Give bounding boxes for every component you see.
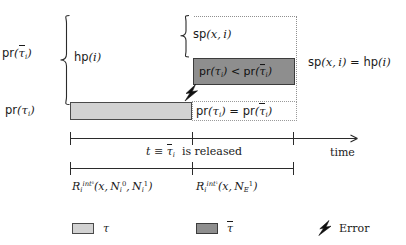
error-lightning-bolt-icon bbox=[184, 84, 200, 102]
label-priority-tau: pr(τi) bbox=[5, 103, 35, 118]
label-hp: hp(i) bbox=[74, 50, 101, 64]
time-tick-end bbox=[293, 132, 294, 145]
dotted-guide-vertical bbox=[296, 16, 297, 102]
legend-swatch-taubar-icon bbox=[196, 223, 218, 234]
legend-swatch-lightning-bolt-icon bbox=[318, 220, 333, 236]
label-interval-0: Riint0(x, Ni0, Ni1) bbox=[72, 180, 153, 194]
interval-tick-end bbox=[293, 162, 294, 175]
legend-item-taubar: τ bbox=[196, 222, 233, 235]
timing-diagram-figure: pr(τi) pr(τi) hp(i) sp(x, i) pr(τi) < pr… bbox=[0, 0, 406, 245]
legend-item-tau: τ bbox=[72, 222, 109, 235]
legend-label-taubar: τ bbox=[227, 222, 233, 235]
dotted-guide-top bbox=[194, 16, 297, 17]
time-axis-arrowhead-icon bbox=[345, 133, 359, 144]
label-release-event: t ≡ τi is released bbox=[146, 145, 242, 159]
interval-tick-middle bbox=[192, 162, 193, 175]
interval-axis-line bbox=[70, 168, 294, 169]
label-interval-1: Riint1(x, NE1) bbox=[196, 180, 257, 194]
legend-item-error: Error bbox=[318, 220, 369, 236]
label-time-axis: time bbox=[330, 146, 355, 159]
legend-label-error: Error bbox=[339, 222, 369, 235]
label-pr-less-than: pr(τi) < pr(τi) bbox=[199, 65, 272, 79]
taubar-execution-bar: pr(τi) < pr(τi) bbox=[193, 58, 295, 85]
tau-execution-bar bbox=[70, 102, 192, 120]
label-sp-equals-hp: sp(x, i) = hp(i) bbox=[308, 55, 391, 69]
legend-swatch-tau-icon bbox=[72, 223, 94, 234]
legend-label-tau: τ bbox=[103, 222, 109, 235]
time-tick-release bbox=[192, 132, 193, 145]
time-axis-line bbox=[70, 138, 351, 139]
label-sp: sp(x, i) bbox=[193, 27, 231, 41]
sp-brace-icon bbox=[178, 14, 191, 60]
hp-brace-icon bbox=[58, 14, 72, 106]
label-pr-equals: pr(τi) = pr(τi) bbox=[196, 104, 272, 119]
label-priority-taubar: pr(τi) bbox=[2, 46, 32, 61]
interval-tick-start bbox=[70, 162, 71, 175]
time-tick-start bbox=[70, 132, 71, 145]
